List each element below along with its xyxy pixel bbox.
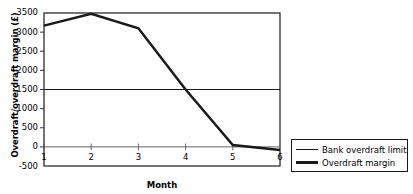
legend-label-bank-overdraft-limit: Bank overdraft limit xyxy=(322,145,407,155)
legend-item-bank-overdraft-limit: Bank overdraft limit xyxy=(296,143,407,156)
x-tick-label-3: 3 xyxy=(128,153,148,162)
legend-line-swatch-thick-icon xyxy=(296,158,318,167)
legend-label-overdraft-margin: Overdraft margin xyxy=(322,158,395,168)
y-tick-label-1500: 1500 xyxy=(2,85,38,94)
y-tick-label-500: 500 xyxy=(2,123,38,132)
x-tick-label-6: 6 xyxy=(270,153,290,162)
x-tick-label-2: 2 xyxy=(81,153,101,162)
y-tick-label-0: 0 xyxy=(2,142,38,151)
legend-item-overdraft-margin: Overdraft margin xyxy=(296,156,395,169)
y-tick-label-2500: 2500 xyxy=(2,47,38,56)
legend-line-swatch-thin-icon xyxy=(296,145,318,154)
x-axis-title: Month xyxy=(44,180,280,190)
y-tick-label-1000: 1000 xyxy=(2,104,38,113)
x-tick-label-5: 5 xyxy=(223,153,243,162)
x-tick-label-1: 1 xyxy=(34,153,54,162)
x-tick-label-4: 4 xyxy=(176,153,196,162)
chart-legend: Bank overdraft limit Overdraft margin xyxy=(291,139,408,172)
y-tick-label-3000: 3000 xyxy=(2,28,38,37)
y-tick-label-3500: 3500 xyxy=(2,8,38,17)
y-tick-label-2000: 2000 xyxy=(2,66,38,75)
y-tick-label-minus500: -500 xyxy=(2,162,38,171)
line-chart-figure: Overdraft/overdraft margin (£) 3500 3000… xyxy=(0,0,413,194)
